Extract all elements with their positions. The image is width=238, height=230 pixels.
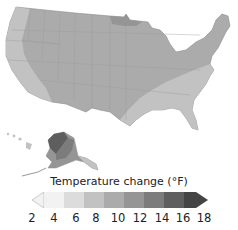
tick-label: 12: [133, 211, 148, 225]
legend-color-bar: [32, 192, 208, 208]
legend-ticks: 2 4 6 8 10 12 14 16 18: [0, 211, 238, 227]
tick-label: 2: [28, 211, 35, 225]
alaska: [22, 132, 98, 176]
tick-label: 14: [155, 211, 170, 225]
tick-label: 8: [92, 211, 99, 225]
tick-label: 18: [197, 211, 212, 225]
tick-label: 6: [72, 211, 79, 225]
contiguous-us: [6, 7, 230, 130]
tick-label: 4: [50, 211, 57, 225]
us-temperature-map: [0, 0, 238, 190]
tick-label: 10: [111, 211, 126, 225]
tick-label: 16: [176, 211, 191, 225]
hawaii: [7, 133, 32, 150]
legend-title: Temperature change (°F): [0, 175, 238, 188]
